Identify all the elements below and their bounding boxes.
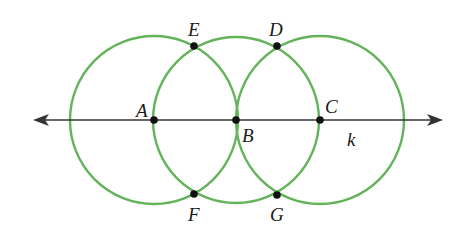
geometry-diagram: ABCDEFGk [0, 0, 468, 227]
point-b [232, 116, 240, 124]
point-e [190, 42, 198, 50]
diagram-canvas [0, 0, 468, 227]
point-d [273, 42, 281, 50]
label-b: B [242, 126, 254, 145]
point-c [316, 116, 324, 124]
point-g [273, 191, 281, 199]
label-g: G [270, 205, 284, 224]
label-d: D [269, 20, 283, 39]
point-f [190, 190, 198, 198]
label-e: E [188, 20, 200, 39]
label-c: C [325, 97, 338, 116]
label-a: A [136, 101, 148, 120]
point-a [150, 116, 158, 124]
label-line-k: k [347, 130, 355, 149]
label-f: F [188, 205, 200, 224]
